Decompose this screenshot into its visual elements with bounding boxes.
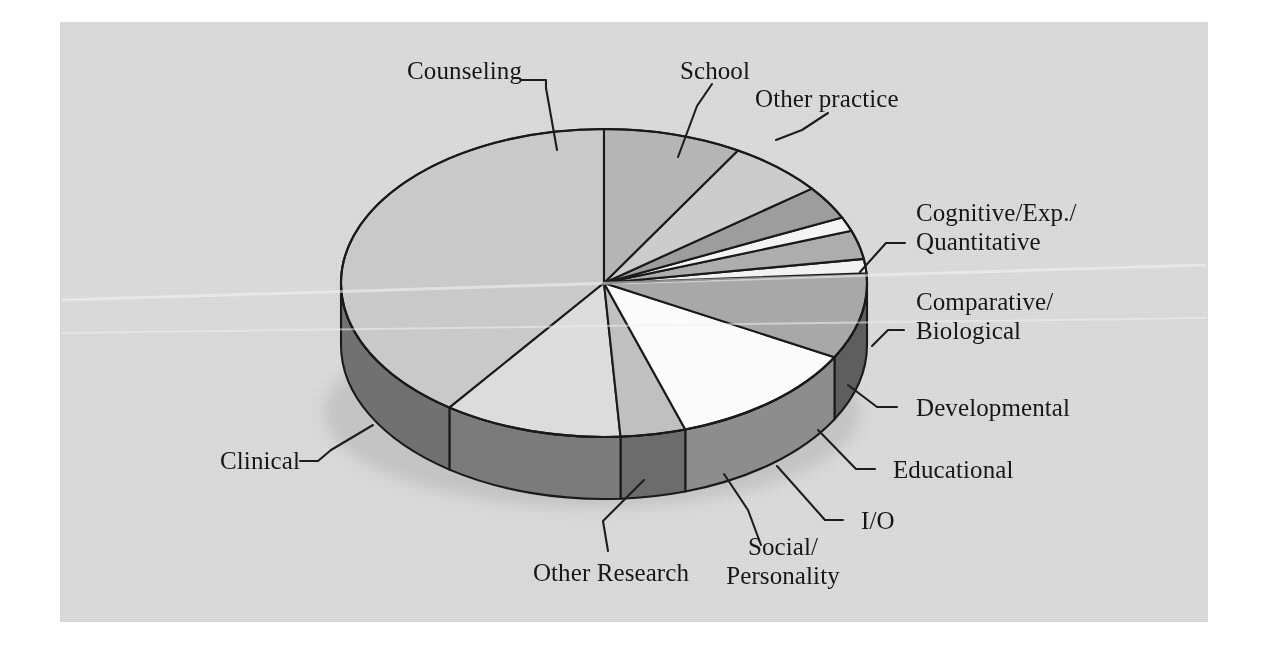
label-counseling: Counseling [302,56,522,85]
leader-other-practice [776,113,828,140]
pie-chart-svg [0,0,1267,651]
label-cognitive-quantitative: Cognitive/Exp./ Quantitative [916,198,1077,256]
label-other-research: Other Research [496,558,726,587]
label-social-line1: Social/ [718,532,848,561]
label-io: I/O [861,506,895,535]
label-developmental: Developmental [916,393,1070,422]
label-social-line2: Personality [718,561,848,590]
label-comparative-line2: Biological [916,316,1053,345]
pie-3d-body [341,129,867,499]
leader-comparative [872,330,904,346]
pie-chart-figure: Counseling School Other practice Cogniti… [0,0,1267,651]
pie-side-wall [621,430,686,499]
label-educational: Educational [893,455,1014,484]
label-other-practice: Other practice [755,84,899,113]
label-comparative-line1: Comparative/ [916,287,1053,316]
label-comparative-biological: Comparative/ Biological [916,287,1053,345]
label-school: School [615,56,815,85]
label-clinical: Clinical [100,446,300,475]
label-cognitive-line2: Quantitative [916,227,1077,256]
label-cognitive-line1: Cognitive/Exp./ [916,198,1077,227]
label-social-personality: Social/ Personality [718,532,848,590]
